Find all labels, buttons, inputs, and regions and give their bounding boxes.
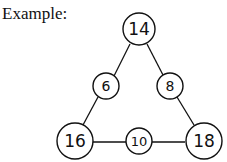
node-top-value: 14	[128, 19, 150, 39]
node-left-mid-value: 6	[102, 78, 111, 94]
edge-top-right	[147, 44, 163, 75]
node-bottom-right-value: 18	[193, 131, 215, 151]
node-right-mid-value: 8	[166, 78, 175, 94]
edge-left	[83, 97, 98, 125]
edge-right	[177, 97, 194, 125]
node-bottom-mid-value: 10	[131, 134, 148, 149]
triangle-diagram: 14 6 8 16 10 18	[0, 0, 227, 162]
edge-top-left	[114, 44, 130, 76]
node-bottom-left-value: 16	[64, 131, 86, 151]
